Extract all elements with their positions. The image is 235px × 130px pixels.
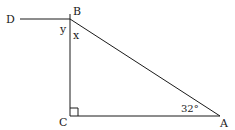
label-d: D bbox=[6, 13, 15, 26]
angle-label-y: y bbox=[59, 23, 67, 36]
label-c: C bbox=[59, 116, 67, 129]
label-b: B bbox=[73, 5, 81, 18]
angle-label-a: 32° bbox=[181, 103, 199, 114]
geometry-diagram: D B C A y x 32° bbox=[0, 0, 235, 130]
segment-ab bbox=[70, 19, 220, 116]
angle-label-x: x bbox=[73, 29, 80, 42]
right-angle-marker bbox=[70, 108, 78, 116]
label-a: A bbox=[219, 117, 229, 130]
diagram-canvas: D B C A y x 32° bbox=[0, 0, 235, 130]
